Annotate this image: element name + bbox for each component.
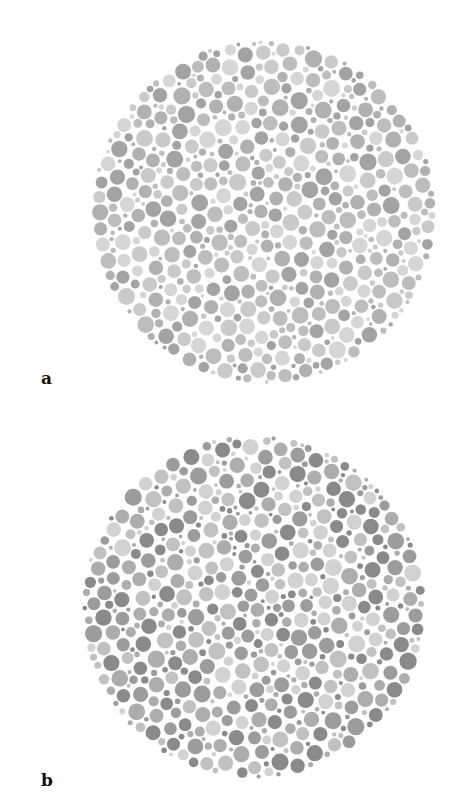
plate-dot — [365, 562, 381, 578]
plate-dot — [272, 731, 288, 747]
plate-dot — [126, 608, 130, 612]
plate-dot — [357, 563, 363, 569]
plate-dot — [390, 699, 396, 705]
plate-dot — [161, 748, 167, 754]
plate-dot — [250, 529, 261, 540]
plate-dot — [199, 484, 214, 499]
plate-dot — [235, 530, 248, 543]
plate-dot — [383, 545, 388, 550]
plate-dot — [149, 677, 164, 692]
plate-dot — [263, 465, 276, 478]
color-vision-plate-b — [0, 0, 467, 807]
plate-dot — [272, 436, 276, 440]
plate-dot — [271, 670, 277, 676]
plate-dot — [239, 564, 244, 569]
plate-dot — [281, 594, 286, 599]
plate-dot — [315, 707, 319, 711]
plate-dot — [339, 478, 343, 482]
plate-dot — [176, 478, 191, 493]
plate-dot — [235, 647, 248, 660]
plate-dot — [274, 443, 288, 457]
plate-dot — [319, 596, 332, 609]
plate-dot — [211, 512, 221, 522]
plate-dot — [231, 571, 246, 586]
plate-dot — [282, 599, 295, 612]
plate-dot — [304, 481, 308, 485]
plate-dot — [265, 698, 278, 711]
plate-dot — [354, 533, 367, 546]
plate-dot — [317, 509, 332, 524]
plate-dot — [418, 601, 424, 607]
plate-dot — [291, 685, 300, 694]
plate-dot — [369, 632, 383, 646]
plate-dot — [177, 608, 187, 618]
plate-dot — [330, 650, 347, 667]
plate-dot — [94, 662, 101, 669]
plate-dot — [173, 625, 186, 638]
plate-dot — [358, 601, 371, 614]
plate-dot — [234, 637, 241, 644]
plate-dot — [176, 589, 192, 605]
plate-dot — [223, 468, 227, 472]
plate-dot — [101, 536, 110, 545]
plate-dot — [205, 562, 218, 575]
plate-dot — [240, 474, 254, 488]
plate-dot — [253, 482, 269, 498]
plate-dot — [307, 745, 323, 761]
plate-dot — [395, 551, 400, 556]
plate-dot — [335, 694, 341, 700]
plate-dot — [286, 674, 290, 678]
plate-dot — [247, 580, 252, 585]
plate-dot — [385, 602, 389, 606]
plate-dot — [236, 512, 240, 516]
plate-dot — [336, 640, 344, 648]
plate-dot — [221, 493, 234, 506]
plate-dot — [375, 605, 380, 610]
plate-dot — [300, 599, 313, 612]
plate-dot — [171, 574, 185, 588]
plate-dot — [212, 497, 220, 505]
plate-dot — [202, 737, 206, 741]
plate-dot — [149, 519, 155, 525]
plate-dot — [105, 601, 113, 609]
plate-dot — [362, 710, 367, 715]
plate-dot — [284, 748, 289, 753]
plate-dot — [139, 477, 153, 491]
plate-dot — [293, 505, 299, 511]
plate-dot — [261, 599, 265, 603]
plate-dot — [193, 488, 197, 492]
plate-dot — [187, 496, 197, 506]
plate-dot — [116, 612, 130, 626]
plate-dot — [232, 552, 236, 556]
plate-dot — [205, 743, 212, 750]
plate-dot — [343, 667, 358, 682]
plate-dot — [301, 710, 305, 714]
plate-dot — [188, 739, 204, 755]
plate-dot — [276, 772, 281, 777]
plate-dot — [325, 453, 330, 458]
plate-dot — [405, 607, 409, 611]
plate-dot — [306, 742, 310, 746]
plate-dot — [149, 696, 159, 706]
plate-dot — [262, 497, 276, 511]
plate-dot — [272, 487, 276, 491]
plate-dot — [262, 728, 267, 733]
plate-dot — [175, 681, 191, 697]
plate-dot — [301, 682, 307, 688]
plate-dot — [261, 553, 274, 566]
plate-dot — [272, 754, 289, 771]
plate-dot — [216, 572, 226, 582]
plate-dot — [185, 545, 196, 556]
plate-dot — [146, 725, 161, 740]
plate-dot — [332, 732, 336, 736]
plate-dot — [233, 546, 237, 550]
plate-dot — [408, 542, 413, 547]
plate-dot — [221, 622, 225, 626]
plate-dot — [97, 642, 111, 656]
plate-dot — [212, 440, 216, 444]
plate-dot — [206, 721, 221, 736]
plate-label-a: a — [41, 370, 52, 387]
plate-dot — [289, 541, 294, 546]
plate-dot — [311, 611, 317, 617]
plate-dot — [190, 468, 207, 485]
